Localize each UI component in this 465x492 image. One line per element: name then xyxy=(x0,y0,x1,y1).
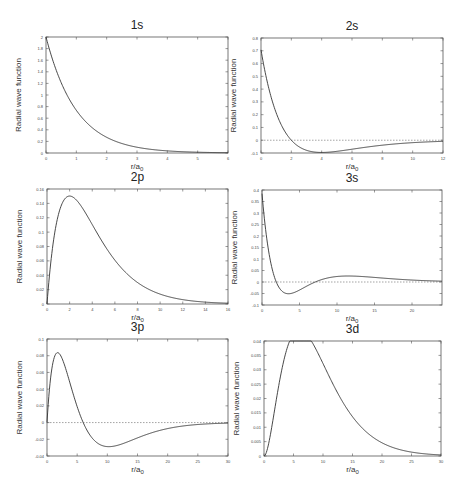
y-tick-label: 0.15 xyxy=(251,245,260,250)
y-tick-label: 0 xyxy=(42,420,45,425)
y-tick-label: 0.04 xyxy=(36,387,45,392)
x-tick-label: 4 xyxy=(321,156,324,161)
y-tick-label: 0.05 xyxy=(251,268,260,273)
x-tick-label: 0 xyxy=(45,156,48,161)
x-tick-label: 5 xyxy=(292,459,295,464)
y-tick-label: 1.8 xyxy=(37,46,43,51)
y-tick-label: 0.3 xyxy=(252,99,258,104)
y-tick-label: 0.4 xyxy=(253,188,259,193)
subplot-title: 2s xyxy=(346,19,359,33)
x-tick-label: 2 xyxy=(106,156,109,161)
y-tick-label: 0.8 xyxy=(252,36,258,41)
x-tick-label: 15 xyxy=(350,459,355,464)
y-tick-label: -0.1 xyxy=(252,303,260,308)
y-tick-label: 0.035 xyxy=(251,353,262,358)
x-tick-label: 3 xyxy=(136,156,139,161)
y-tick-label: 0.14 xyxy=(36,201,45,206)
y-tick-label: 0.4 xyxy=(252,87,258,92)
subplot-title: 3d xyxy=(346,322,359,336)
y-tick-label: 0.03 xyxy=(253,367,262,372)
y-tick-label: 0 xyxy=(256,138,259,143)
subplot-title: 2p xyxy=(131,170,145,184)
x-tick-label: 6 xyxy=(227,156,230,161)
plot-frame xyxy=(261,38,443,153)
x-tick-label: 0 xyxy=(260,156,263,161)
y-tick-label: -0.02 xyxy=(35,437,45,442)
x-tick-label: 6 xyxy=(351,156,354,161)
x-axis-label: r/a0 xyxy=(131,465,144,475)
x-tick-label: 10 xyxy=(158,307,163,312)
y-tick-label: -0.05 xyxy=(250,291,260,296)
wave-function-curve xyxy=(264,341,441,456)
y-tick-label: 0.12 xyxy=(36,215,45,220)
x-tick-label: 20 xyxy=(165,459,170,464)
x-tick-label: 0 xyxy=(46,307,49,312)
x-tick-label: 6 xyxy=(114,307,117,312)
y-axis-label: Radial wave function xyxy=(230,211,239,285)
subplot-3p: 3p-0.04-0.0200.020.040.060.080.105101520… xyxy=(15,320,231,475)
x-tick-label: 10 xyxy=(105,459,110,464)
plot-frame xyxy=(47,189,228,304)
wave-function-curve xyxy=(47,196,228,304)
y-tick-label: 0.02 xyxy=(36,403,45,408)
y-tick-label: 0.7 xyxy=(252,48,258,53)
y-tick-label: -0.04 xyxy=(35,454,45,459)
y-tick-label: 1 xyxy=(41,93,44,98)
wave-function-curve xyxy=(261,50,443,153)
radial-wave-function-figure: 1s00.20.40.60.811.21.41.61.820123456r/a0… xyxy=(0,0,465,492)
x-tick-label: 4 xyxy=(91,307,94,312)
y-tick-label: -0.1 xyxy=(251,151,259,156)
x-tick-label: 20 xyxy=(410,308,415,313)
subplot-title: 3s xyxy=(346,171,359,185)
y-tick-label: 0.25 xyxy=(251,222,260,227)
y-tick-label: 0.5 xyxy=(252,74,258,79)
y-tick-label: 0.8 xyxy=(37,104,43,109)
y-tick-label: 0.16 xyxy=(36,187,45,192)
subplot-title: 3p xyxy=(131,320,145,334)
subplot-2s: 2s-0.100.10.20.30.40.50.60.70.8024681012… xyxy=(229,19,446,172)
x-tick-label: 14 xyxy=(203,307,208,312)
wave-function-curve xyxy=(47,353,228,447)
x-tick-label: 10 xyxy=(410,156,415,161)
y-tick-label: 0.02 xyxy=(36,287,45,292)
x-tick-label: 0 xyxy=(261,308,264,313)
y-tick-label: 0.1 xyxy=(252,125,258,130)
y-tick-label: 0 xyxy=(41,151,44,156)
y-tick-label: 0.005 xyxy=(251,439,262,444)
subplot-title: 1s xyxy=(131,18,144,32)
y-tick-label: 0.6 xyxy=(37,116,43,121)
y-axis-label: Radial wave function xyxy=(229,59,238,133)
x-tick-label: 15 xyxy=(135,459,140,464)
y-tick-label: 0.6 xyxy=(252,61,258,66)
x-axis-label: r/a0 xyxy=(346,465,359,475)
plot-frame xyxy=(264,341,441,456)
x-tick-label: 10 xyxy=(321,459,326,464)
y-tick-label: 0.08 xyxy=(36,244,45,249)
subplot-3d: 3d00.0050.010.0150.020.0250.030.0350.040… xyxy=(232,322,444,475)
y-tick-label: 0.1 xyxy=(38,230,44,235)
x-tick-label: 5 xyxy=(298,308,301,313)
x-tick-label: 2 xyxy=(290,156,293,161)
x-tick-label: 2 xyxy=(69,307,72,312)
x-tick-label: 20 xyxy=(380,459,385,464)
x-tick-label: 10 xyxy=(335,308,340,313)
y-tick-label: 1.6 xyxy=(37,58,43,63)
y-tick-label: 0.2 xyxy=(252,112,258,117)
y-tick-label: 0.3 xyxy=(253,211,259,216)
x-tick-label: 5 xyxy=(197,156,200,161)
y-axis-label: Radial wave function xyxy=(15,361,24,435)
subplot-1s: 1s00.20.40.60.811.21.41.61.820123456r/a0… xyxy=(14,18,230,172)
y-tick-label: 0.08 xyxy=(36,353,45,358)
x-tick-label: 0 xyxy=(46,459,49,464)
wave-function-curve xyxy=(262,193,442,293)
x-tick-label: 12 xyxy=(441,156,446,161)
y-tick-label: 0.01 xyxy=(253,425,262,430)
y-tick-label: 0.1 xyxy=(38,337,44,342)
y-tick-label: 0.015 xyxy=(251,410,262,415)
y-tick-label: 0.4 xyxy=(37,127,43,132)
plot-frame xyxy=(262,190,442,305)
x-tick-label: 25 xyxy=(409,459,414,464)
x-tick-label: 5 xyxy=(76,459,79,464)
y-axis-label: Radial wave function xyxy=(14,58,23,132)
y-tick-label: 0.06 xyxy=(36,370,45,375)
